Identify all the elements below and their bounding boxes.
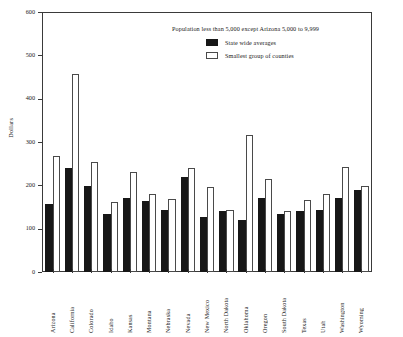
x-axis-label: Idaho [108, 275, 114, 333]
y-axis-tick-label: 400 [26, 94, 35, 101]
bar [335, 198, 342, 272]
bar [103, 214, 110, 273]
x-axis-tick-mark [111, 269, 112, 273]
bar [342, 167, 349, 272]
bar [304, 200, 311, 272]
legend-swatch-light [206, 52, 218, 60]
bar [226, 210, 233, 272]
y-axis-tick-label: 0 [32, 268, 35, 275]
x-axis-label: Texas [301, 275, 307, 333]
bar [149, 194, 156, 272]
bar [188, 168, 195, 272]
x-axis-label: Kansas [127, 275, 133, 333]
bar [265, 179, 272, 272]
x-axis-tick-mark [188, 269, 189, 273]
x-axis-label: Oregon [262, 275, 268, 333]
y-axis-tick-label: 200 [26, 181, 35, 188]
x-axis-tick-mark [361, 269, 362, 273]
bar-group [101, 12, 120, 272]
y-axis-tick: 300 [0, 142, 42, 143]
y-axis-tick: 400 [0, 99, 42, 100]
bar-group [313, 12, 332, 272]
x-axis-tick-mark [304, 269, 305, 273]
x-axis-label: South Dakota [281, 275, 287, 333]
x-axis-tick-mark [284, 269, 285, 273]
bar [45, 204, 52, 272]
bar [284, 211, 291, 272]
x-axis-label-cell: North Dakota [217, 273, 236, 333]
bar-group [62, 12, 81, 272]
bar [207, 187, 214, 272]
x-axis-label: Arizona [50, 275, 56, 333]
bar [168, 199, 175, 272]
bar-group [178, 12, 197, 272]
y-axis-tick: 200 [0, 185, 42, 186]
y-axis-title: Dollars [7, 118, 19, 138]
y-axis-tick: 100 [0, 229, 42, 230]
bar [323, 194, 330, 272]
bar-group [43, 12, 62, 272]
bar [72, 74, 79, 272]
x-axis-label: Montana [146, 275, 152, 333]
bar [354, 190, 361, 272]
bar [142, 201, 149, 272]
x-axis-label: Colorado [88, 275, 94, 333]
y-axis-tick-label: 100 [26, 224, 35, 231]
bar [181, 177, 188, 272]
x-axis-label-cell: New Mexico [197, 273, 216, 333]
x-axis-label-cell: Texas [294, 273, 313, 333]
y-axis-tick-label: 600 [26, 8, 35, 15]
x-axis-label-cell: Oklahoma [236, 273, 255, 333]
bar [111, 202, 118, 272]
x-axis-label-cell: Arizona [43, 273, 62, 333]
bar [277, 214, 284, 273]
chart-legend: State wide averages Smallest group of co… [206, 37, 294, 63]
bar-group [294, 12, 313, 272]
x-axis-label-cell: Utah [313, 273, 332, 333]
x-axis-tick-mark [265, 269, 266, 273]
x-axis-label-cell: Oregon [255, 273, 274, 333]
legend-item-state-wide-averages: State wide averages [206, 37, 294, 48]
x-axis-tick-mark [72, 269, 73, 273]
x-axis-tick-mark [91, 269, 92, 273]
bar [246, 135, 253, 272]
x-axis-tick-mark [207, 269, 208, 273]
x-axis-label-cell: Kansas [120, 273, 139, 333]
x-axis-tick-mark [53, 269, 54, 273]
x-axis-label: Utah [320, 275, 326, 333]
bar [91, 162, 98, 272]
x-axis-label-cell: Nebraska [159, 273, 178, 333]
bar [53, 156, 60, 272]
x-axis-label: Nebraska [165, 275, 171, 333]
y-axis-tick: 600 [0, 12, 42, 13]
y-axis-tick-label: 500 [26, 51, 35, 58]
bar [65, 168, 72, 272]
y-axis-tick-label: 300 [26, 138, 35, 145]
chart-annotation: Population less than 5,000 except Arizon… [172, 25, 319, 32]
x-axis-tick-mark [323, 269, 324, 273]
bar-group [82, 12, 101, 272]
x-axis-label-cell: Wyoming [352, 273, 371, 333]
bar [296, 211, 303, 272]
x-axis-tick-mark [246, 269, 247, 273]
bar [219, 211, 226, 272]
bar-chart-figure: Dollars 0100200300400500600 ArizonaCalif… [0, 0, 403, 337]
bar [161, 210, 168, 272]
x-axis-label-cell: Washington [332, 273, 351, 333]
x-axis-label: New Mexico [204, 275, 210, 333]
bar [200, 217, 207, 272]
bar [316, 210, 323, 272]
bar-group [139, 12, 158, 272]
y-axis-tick: 0 [0, 272, 42, 273]
x-axis-label: Washington [339, 275, 345, 333]
x-axis-labels: ArizonaCaliforniaColoradoIdahoKansasMont… [42, 273, 372, 333]
x-axis-label-cell: South Dakota [275, 273, 294, 333]
bar-group [332, 12, 351, 272]
x-axis-label: Wyoming [358, 275, 364, 333]
bar [258, 198, 265, 272]
bar [130, 172, 137, 272]
bar-group [159, 12, 178, 272]
bar [84, 186, 91, 272]
legend-item-smallest-group-of-counties: Smallest group of counties [206, 50, 294, 61]
y-axis-tick: 500 [0, 55, 42, 56]
